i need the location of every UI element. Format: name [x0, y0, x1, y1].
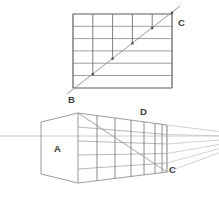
label-c-top: C [178, 17, 185, 28]
intersection-point-3 [131, 42, 133, 44]
canvas-background [0, 0, 219, 198]
label-d: D [140, 106, 147, 117]
intersection-point-1 [92, 73, 94, 75]
intersection-point-5 [171, 12, 173, 14]
label-a: A [54, 143, 61, 154]
label-b: B [68, 94, 75, 105]
label-c-bottom: C [169, 164, 176, 175]
diagram-canvas: C B [0, 0, 219, 198]
perspective-construction-diagram: C B [0, 0, 219, 198]
intersection-point-4 [151, 27, 153, 29]
intersection-point-2 [112, 58, 114, 60]
